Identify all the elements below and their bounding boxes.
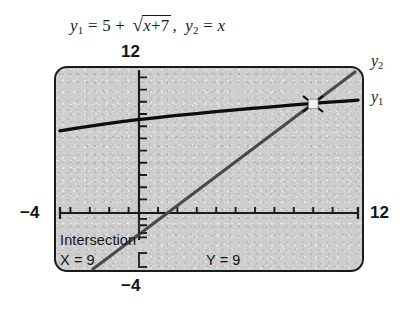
title-equation: y1 = 5 + √x+7, y2 = x (70, 14, 225, 36)
title-equals-sign: = (88, 16, 98, 35)
title-y2-variable: y2 (185, 16, 198, 35)
title-constant-5: 5 (102, 16, 111, 35)
radicand: x+7 (142, 15, 171, 36)
square-root-expression: √x+7 (130, 14, 172, 36)
intersection-label: Intersection (60, 232, 136, 248)
y-axis-max-label: 12 (121, 42, 140, 62)
radicand-variable: x (143, 16, 151, 35)
title-y2-expression: x (218, 16, 226, 35)
graphing-calculator-screen[interactable]: Intersection X = 9 Y = 9 (54, 66, 364, 272)
x-value-readout: X = 9 (60, 252, 95, 268)
y-axis-min-label: −4 (121, 276, 140, 296)
y-value-readout: Y = 9 (206, 252, 241, 268)
title-y2-equals-sign: = (203, 16, 213, 35)
title-y1-variable: y1 (70, 16, 83, 35)
radicand-constant: 7 (161, 16, 170, 35)
x-axis-max-label: 12 (370, 203, 389, 223)
radicand-plus-sign: + (151, 16, 161, 35)
curve-label-y2: y2 (371, 52, 383, 71)
cursor-bracket-icon-lower (138, 252, 147, 268)
cursor-bracket-icon-upper (138, 218, 147, 234)
title-plus-sign: + (115, 16, 125, 35)
curve-label-y1: y1 (371, 88, 383, 107)
x-axis-min-label: −4 (20, 203, 39, 223)
title-comma: , (171, 16, 180, 35)
